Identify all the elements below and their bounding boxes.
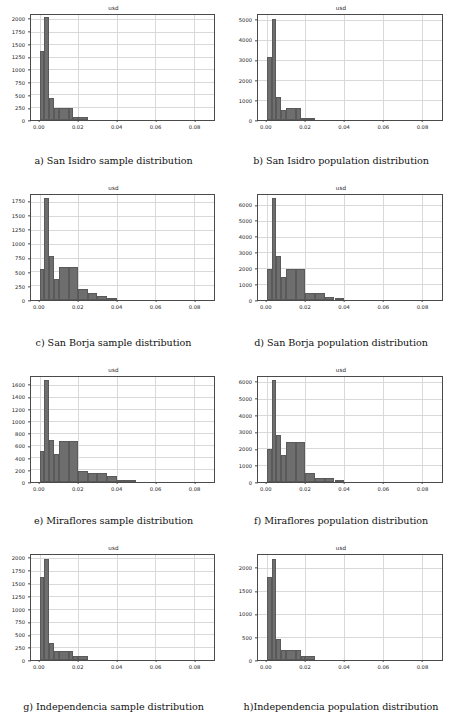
histogram-bar: [315, 293, 325, 300]
bar-series: [258, 555, 442, 660]
y-axis-ticks: 025050075010001250150017502000: [2, 14, 28, 121]
bar-series: [31, 15, 214, 120]
y-tick-mark: [28, 648, 31, 649]
x-tick-label: 0.00: [33, 124, 45, 130]
y-tick-label: 800: [15, 431, 25, 437]
chart-title: usd: [0, 185, 227, 191]
x-tick-label: 0.00: [260, 124, 272, 130]
y-tick-label: 1500: [12, 581, 25, 587]
axes-frame: [257, 194, 443, 301]
x-tick-mark: [265, 482, 266, 485]
plot-area-h: 05001000150020000.000.020.040.060.08: [257, 554, 443, 661]
x-tick-mark: [344, 300, 345, 303]
y-tick-mark: [255, 205, 258, 206]
histogram-figure-b: usd0100020003000400050000.000.020.040.06…: [227, 0, 455, 180]
x-tick-mark: [344, 120, 345, 123]
y-tick-label: 1000: [12, 607, 25, 613]
histogram-bar: [305, 118, 315, 120]
y-tick-mark: [28, 286, 31, 287]
y-tick-label: 1000: [239, 98, 252, 104]
y-tick-mark: [28, 422, 31, 423]
chart-title: usd: [227, 367, 455, 373]
y-tick-label: 0: [249, 118, 252, 124]
y-tick-label: 1000: [12, 419, 25, 425]
y-tick-label: 1500: [12, 42, 25, 48]
histogram-figure-d: usd01000200030004000500060000.000.020.04…: [227, 180, 455, 362]
histogram-bar: [296, 269, 306, 300]
y-tick-label: 0: [249, 480, 252, 486]
y-tick-label: 1000: [12, 67, 25, 73]
y-tick-mark: [28, 230, 31, 231]
y-tick-label: 500: [15, 270, 25, 276]
x-tick-label: 0.08: [417, 664, 429, 670]
axes-frame: [257, 376, 443, 483]
histogram-bar: [325, 478, 335, 482]
y-tick-mark: [28, 558, 31, 559]
y-tick-label: 5000: [239, 396, 252, 402]
y-tick-label: 0: [22, 118, 25, 124]
x-tick-label: 0.00: [260, 486, 272, 492]
chart-panel-c: usd025050075010001250150017500.000.020.0…: [0, 180, 227, 362]
x-tick-mark: [265, 660, 266, 663]
x-tick-mark: [116, 482, 117, 485]
bar-series: [31, 377, 214, 482]
x-tick-label: 0.08: [189, 304, 201, 310]
y-tick-mark: [255, 253, 258, 254]
x-axis-ticks: 0.000.020.040.060.08: [30, 484, 215, 494]
y-tick-mark: [28, 201, 31, 202]
y-tick-label: 750: [15, 619, 25, 625]
x-tick-mark: [77, 300, 78, 303]
chart-title: usd: [227, 5, 455, 11]
chart-panel-a: usd0250500750100012501500175020000.000.0…: [0, 0, 227, 180]
y-tick-label: 1500: [12, 213, 25, 219]
x-tick-label: 0.02: [72, 304, 84, 310]
histogram-bar: [335, 298, 345, 300]
y-tick-mark: [28, 446, 31, 447]
x-tick-mark: [422, 660, 423, 663]
y-tick-label: 1000: [12, 241, 25, 247]
bar-series: [31, 195, 214, 300]
y-tick-mark: [255, 382, 258, 383]
y-tick-label: 200: [15, 468, 25, 474]
y-tick-label: 3000: [239, 57, 252, 63]
plot-area-g: 0250500750100012501500175020000.000.020.…: [30, 554, 215, 661]
y-axis-ticks: 0500100015002000: [229, 554, 255, 661]
x-tick-label: 0.04: [338, 124, 350, 130]
x-tick-mark: [305, 120, 306, 123]
x-tick-label: 0.06: [378, 664, 390, 670]
y-tick-label: 0: [249, 658, 252, 664]
y-tick-mark: [255, 449, 258, 450]
bar-series: [31, 555, 214, 660]
x-tick-mark: [305, 482, 306, 485]
y-tick-label: 1600: [12, 382, 25, 388]
histogram-bar: [296, 442, 306, 482]
x-tick-label: 0.00: [33, 486, 45, 492]
x-axis-ticks: 0.000.020.040.060.08: [30, 302, 215, 312]
y-tick-mark: [255, 100, 258, 101]
bar-series: [258, 15, 442, 120]
x-tick-mark: [77, 120, 78, 123]
y-axis-ticks: 025050075010001250150017502000: [2, 554, 28, 661]
histogram-bar: [78, 656, 88, 660]
histogram-figure-e: usd020040060080010001200140016000.000.02…: [0, 362, 227, 540]
x-tick-label: 0.06: [378, 304, 390, 310]
y-tick-mark: [28, 609, 31, 610]
y-tick-label: 6000: [239, 202, 252, 208]
x-tick-label: 0.08: [417, 486, 429, 492]
histogram-bar: [305, 293, 315, 300]
x-tick-mark: [194, 300, 195, 303]
x-tick-mark: [383, 120, 384, 123]
y-tick-label: 2000: [239, 565, 252, 571]
histogram-bar: [107, 298, 117, 300]
axes-frame: [257, 554, 443, 661]
y-tick-label: 0: [249, 298, 252, 304]
x-tick-label: 0.02: [72, 664, 84, 670]
chart-title: usd: [0, 5, 227, 11]
y-tick-label: 1250: [12, 594, 25, 600]
y-tick-mark: [255, 285, 258, 286]
y-tick-mark: [255, 466, 258, 467]
y-tick-mark: [28, 409, 31, 410]
y-tick-label: 750: [15, 80, 25, 86]
y-tick-label: 3000: [239, 250, 252, 256]
y-tick-mark: [255, 269, 258, 270]
